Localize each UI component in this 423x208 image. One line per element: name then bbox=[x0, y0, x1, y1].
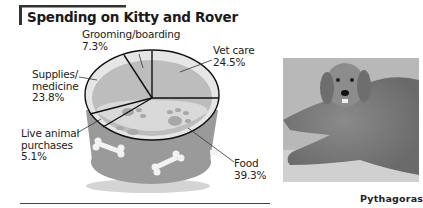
chart-title: Spending on Kitty and Rover bbox=[27, 9, 238, 25]
label-vet-value: 24.5% bbox=[213, 57, 254, 69]
bottom-rule bbox=[20, 203, 270, 204]
label-food-name: Food bbox=[234, 158, 266, 170]
label-food: Food 39.3% bbox=[234, 158, 266, 181]
label-grooming-name: Grooming/boarding bbox=[82, 29, 180, 41]
title-frame-top bbox=[19, 5, 126, 8]
label-food-value: 39.3% bbox=[234, 170, 266, 182]
label-grooming-value: 7.3% bbox=[82, 41, 180, 53]
label-grooming: Grooming/boarding 7.3% bbox=[82, 29, 180, 52]
label-vet-care: Vet care 24.5% bbox=[213, 45, 254, 68]
bone-icon bbox=[210, 150, 218, 155]
label-supplies-name1: Supplies/ bbox=[32, 69, 78, 81]
label-live-name1: Live animal bbox=[21, 128, 79, 140]
label-live-value: 5.1% bbox=[21, 151, 79, 163]
label-vet-name: Vet care bbox=[213, 45, 254, 57]
title-frame-left bbox=[19, 5, 22, 25]
photo-caption: Pythagoras bbox=[360, 193, 423, 204]
dog-photo bbox=[283, 58, 419, 182]
label-live-animal: Live animal purchases 5.1% bbox=[21, 128, 79, 163]
label-supplies: Supplies/ medicine 23.8% bbox=[32, 69, 78, 104]
label-supplies-value: 23.8% bbox=[32, 92, 78, 104]
